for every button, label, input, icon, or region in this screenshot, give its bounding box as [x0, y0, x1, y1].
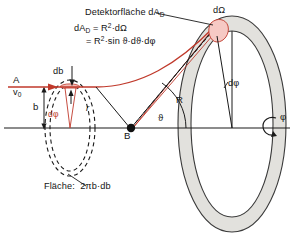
impact-parameter-arrow [41, 87, 46, 130]
radius-r-line [96, 87, 130, 128]
distance-r-label: r [86, 103, 89, 113]
azimuth-differential-right-label: dφ [228, 79, 239, 88]
initial-velocity-label: v0 [13, 88, 21, 98]
scattering-center-label: B [124, 131, 131, 141]
scattering-angle-label: ϑ [158, 113, 163, 123]
azimuth-differential-left-label: dφ [48, 110, 59, 119]
solid-angle-patch [209, 19, 229, 42]
source-point-label: A [13, 75, 20, 85]
equation-line-2: = R2·sin ϑ·dϑ·dφ [86, 36, 156, 46]
area-caption: Fläche: 2πb·db [44, 182, 111, 191]
impact-differential-label: db [53, 67, 63, 76]
equation-line-1: dAD = R2·dΩ [74, 23, 127, 35]
detector-radius-label: R [176, 95, 183, 105]
detector-area-caption: Detektorfläche dAD [85, 8, 165, 18]
azimuth-angle-label: φ [280, 112, 286, 122]
incident-beam-arrowhead [48, 84, 58, 91]
solid-angle-label: dΩ [213, 6, 225, 15]
impact-parameter-label: b [33, 102, 38, 112]
scattering-cross-section-figure: Detektorfläche dAD dAD = R2·dΩ = R2·sin … [0, 0, 294, 243]
